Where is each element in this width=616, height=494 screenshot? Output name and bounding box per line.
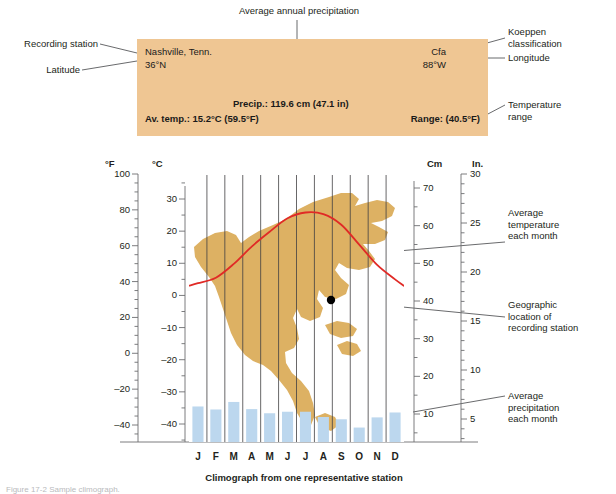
tick-label: 5	[470, 413, 475, 424]
tick-label: 30	[137, 193, 177, 204]
month-label: M	[263, 451, 277, 462]
tick-label: –10	[137, 322, 177, 333]
tick-label: 0	[137, 289, 177, 300]
station-location-marker	[327, 296, 335, 304]
temperature-curve	[189, 175, 404, 442]
month-label: A	[245, 451, 259, 462]
tick-label: 70	[423, 182, 434, 193]
tick-label: 30	[470, 168, 481, 179]
chart-caption: Climograph from one representative stati…	[189, 472, 419, 483]
month-label: N	[370, 451, 384, 462]
tick-label: 20	[423, 370, 434, 381]
tick-label: 40	[423, 295, 434, 306]
tick-label: 20	[470, 266, 481, 277]
month-label: A	[316, 451, 330, 462]
tick-label: 100	[90, 168, 130, 179]
tick-label: –20	[137, 354, 177, 365]
tick-label: 10	[423, 408, 434, 419]
tick-label: 60	[90, 240, 130, 251]
figure-caption: Figure 17-2 Sample climograph.	[6, 485, 120, 494]
month-label: F	[209, 451, 223, 462]
month-label: S	[334, 451, 348, 462]
tick-label: –40	[137, 418, 177, 429]
climograph-plot-area	[189, 175, 404, 442]
tick-label: 60	[423, 220, 434, 231]
month-label: J	[298, 451, 312, 462]
tick-label: 20	[90, 311, 130, 322]
tick-label: 30	[423, 333, 434, 344]
tick-label: –20	[90, 383, 130, 394]
tick-label: 50	[423, 257, 434, 268]
tick-label: 20	[137, 225, 177, 236]
tick-label: 25	[470, 217, 481, 228]
month-label: J	[281, 451, 295, 462]
tick-label: –30	[137, 386, 177, 397]
temperature-line	[189, 212, 404, 286]
tick-label: 40	[90, 276, 130, 287]
month-label: M	[227, 451, 241, 462]
tick-label: 10	[137, 257, 177, 268]
tick-label: 10	[470, 364, 481, 375]
tick-label: 80	[90, 204, 130, 215]
month-label: J	[191, 451, 205, 462]
month-label: O	[352, 451, 366, 462]
tick-label: –40	[90, 419, 130, 430]
month-label: D	[388, 451, 402, 462]
tick-label: 0	[90, 347, 130, 358]
tick-label: 15	[470, 315, 481, 326]
